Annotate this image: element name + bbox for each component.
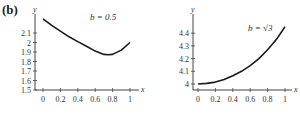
y-tick-label: 4	[185, 80, 189, 89]
x-tick-label: 1	[283, 95, 287, 104]
x-tick-label: 1	[128, 95, 132, 104]
x-tick-label: 0.8	[263, 95, 273, 104]
x-axis-label: x	[140, 85, 145, 94]
x-tick-label: 0	[196, 95, 200, 104]
chart-panel-2: xy00.20.40.60.8144.14.24.34.4b = √3	[179, 5, 298, 104]
curve-line	[198, 27, 285, 84]
x-tick-label: 0.6	[90, 95, 100, 104]
curve-line	[43, 19, 130, 55]
y-tick-label: 4.2	[179, 55, 189, 64]
figure: (b) xy00.20.40.60.811.51.61.71.81.922.1b…	[0, 0, 300, 120]
x-tick-label: 0	[41, 95, 45, 104]
x-tick-label: 0.8	[108, 95, 118, 104]
panel-label: (b)	[2, 2, 18, 18]
x-tick-label: 0.4	[228, 95, 238, 104]
x-tick-label: 0.4	[73, 95, 83, 104]
parameter-annotation: b = 0.5	[90, 12, 117, 22]
x-tick-label: 0.6	[245, 95, 255, 104]
x-tick-label: 0.2	[55, 95, 65, 104]
y-tick-label: 1.7	[21, 67, 31, 76]
y-tick-label: 1.5	[21, 86, 31, 95]
x-axis-label: x	[293, 85, 298, 94]
x-tick-label: 0.2	[210, 95, 220, 104]
y-axis-label: y	[190, 5, 195, 14]
y-tick-label: 2.1	[21, 29, 31, 38]
charts-canvas: xy00.20.40.60.811.51.61.71.81.922.1b = 0…	[0, 0, 300, 120]
y-axis-label: y	[32, 5, 37, 14]
y-tick-label: 4.4	[179, 29, 189, 38]
parameter-annotation: b = √3	[248, 23, 273, 33]
chart-panel-1: xy00.20.40.60.811.51.61.71.81.922.1b = 0…	[21, 5, 145, 104]
y-tick-label: 2	[27, 39, 31, 48]
y-tick-label: 1.9	[21, 48, 31, 57]
y-tick-label: 1.8	[21, 58, 31, 67]
y-tick-label: 4.1	[179, 67, 189, 76]
y-tick-label: 4.3	[179, 42, 189, 51]
y-tick-label: 1.6	[21, 77, 31, 86]
